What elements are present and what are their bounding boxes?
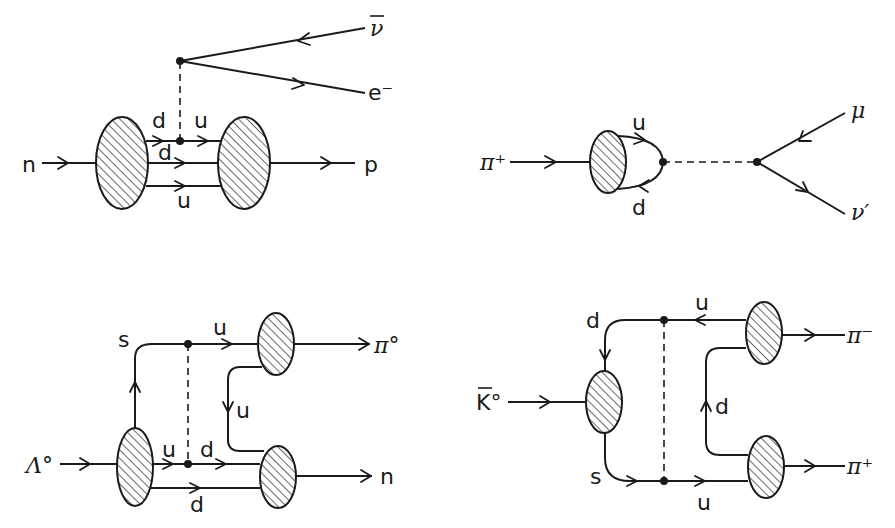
label-muon: μ [851, 98, 865, 123]
lambda-blob [117, 428, 153, 506]
arrow-icon [292, 78, 304, 89]
arrow-icon [639, 180, 649, 192]
label-pion: π⁺ [479, 150, 506, 175]
label-pi-minus: π⁻ [846, 323, 873, 348]
label-quark: d [715, 394, 729, 419]
pi-minus-blob [746, 302, 782, 364]
label-quark: u [697, 490, 711, 515]
proton-blob [218, 117, 270, 209]
label-kaon: K° [476, 390, 501, 415]
electron-line [180, 61, 365, 93]
label-neutrino: ν′ [851, 200, 869, 225]
pion-blob [590, 131, 626, 193]
label-quark: s [590, 464, 601, 489]
label-antineutrino: ν [370, 16, 383, 41]
label-quark: u [695, 290, 709, 315]
label-lambda: Λ° [24, 453, 53, 478]
label-quark: u [177, 188, 191, 213]
feynman-diagrams-figure: n p ν e⁻ d u d u π⁺ u d μ ν′ [0, 0, 895, 528]
label-quark: d [200, 437, 214, 462]
label-neutron: n [380, 464, 394, 489]
antineutrino-line [180, 28, 365, 61]
bottom-quark-line [605, 432, 748, 481]
label-quark: u [236, 398, 250, 423]
label-quark: d [158, 140, 172, 165]
label-quark: d [632, 195, 646, 220]
pi0-blob [258, 313, 294, 375]
label-quark: u [632, 110, 646, 135]
label-quark: u [194, 108, 208, 133]
label-quark: d [152, 108, 166, 133]
kaon-blob [586, 371, 622, 433]
label-quark: d [190, 492, 204, 517]
neutron-blob [260, 446, 296, 508]
pi-plus-blob [748, 436, 784, 498]
label-pi-plus: π⁺ [846, 454, 873, 479]
label-electron: e⁻ [368, 80, 393, 105]
neutron-blob [96, 117, 148, 209]
label-quark: s [118, 327, 129, 352]
label-quark: u [213, 315, 227, 340]
top-quark-line [605, 320, 746, 372]
diagram-pion-decay: π⁺ u d μ ν′ [479, 98, 869, 225]
label-quark: u [162, 437, 176, 462]
label-pi0: π° [373, 333, 399, 358]
diagram-kaon-decay: K° d u π⁻ d s u π⁺ [476, 290, 873, 515]
neutrino-line [757, 162, 845, 214]
diagram-neutron-beta-decay: n p ν e⁻ d u d u [22, 16, 393, 213]
label-p: p [364, 152, 378, 177]
label-n: n [22, 152, 36, 177]
diagram-lambda-decay: Λ° s u π° u u d n d [24, 313, 399, 517]
label-quark: d [586, 308, 600, 333]
